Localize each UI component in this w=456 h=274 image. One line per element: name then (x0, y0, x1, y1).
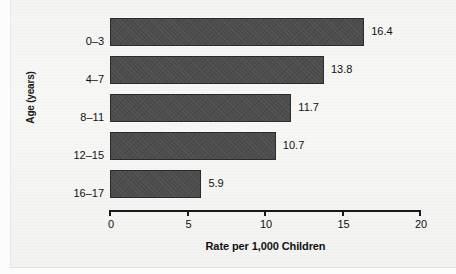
bar-4[interactable] (110, 170, 201, 198)
x-tick-label-1: 5 (174, 218, 204, 230)
bar-value-label-2: 11.7 (298, 102, 319, 113)
y-tick-label-0: 0–3 (40, 36, 104, 47)
y-tick-label-4: 16–17 (40, 188, 104, 199)
x-tick-3 (342, 210, 344, 216)
bar-value-label-0: 16.4 (371, 26, 392, 37)
y-tick-label-2: 8–11 (40, 112, 104, 123)
panel-left-edge (10, 0, 11, 268)
x-tick-label-3: 15 (329, 218, 359, 230)
x-tick-label-2: 10 (251, 218, 281, 230)
bar-value-label-4: 5.9 (208, 178, 223, 189)
bar-chart-figure: Age (years) 0–3 4–7 8–11 12–15 16–17 16.… (0, 0, 456, 274)
bar-value-label-3: 10.7 (283, 140, 304, 151)
y-tick-label-3: 12–15 (40, 150, 104, 161)
x-tick-label-4: 20 (406, 218, 436, 230)
x-tick-2 (264, 210, 266, 216)
x-axis-title: Rate per 1,000 Children (110, 240, 421, 252)
x-tick-label-0: 0 (96, 218, 126, 230)
bar-0[interactable] (110, 18, 364, 46)
plot-area: 16.4 13.8 11.7 10.7 5.9 (110, 14, 420, 210)
y-axis-title: Age (years) (25, 50, 36, 146)
bar-value-label-1: 13.8 (331, 64, 352, 75)
y-axis-tick-labels: 0–3 4–7 8–11 12–15 16–17 (40, 14, 104, 210)
x-tick-4 (419, 210, 421, 216)
bar-2[interactable] (110, 94, 291, 122)
bar-3[interactable] (110, 132, 276, 160)
bar-1[interactable] (110, 56, 324, 84)
x-tick-0 (109, 210, 111, 216)
panel-bottom-edge (10, 267, 456, 268)
x-tick-1 (187, 210, 189, 216)
y-tick-label-1: 4–7 (40, 74, 104, 85)
